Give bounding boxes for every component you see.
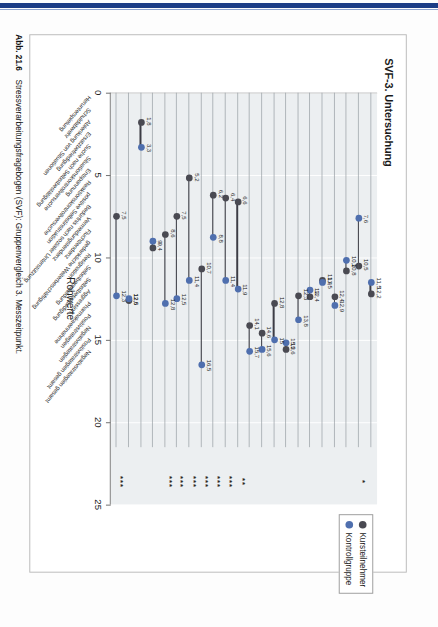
category-rule — [310, 92, 311, 446]
data-point-kontrollgruppe — [138, 143, 145, 150]
figure-caption: Abb. 21.6Stressverarbeitungsfragebogen (… — [14, 34, 24, 580]
data-point-value-label: 1,8 — [145, 117, 152, 125]
pair-connector — [249, 325, 250, 351]
data-point-kontrollgruppe — [186, 277, 193, 284]
data-point-kontrollgruppe — [331, 301, 338, 308]
data-point-value-label: 12,8 — [278, 296, 285, 308]
figure-caption-text: Stressverarbeitungsfragebogen (SVF): Gru… — [14, 79, 24, 354]
category-rule — [152, 92, 153, 446]
data-point-value-label: 8,8 — [218, 234, 225, 242]
data-point-kontrollgruppe — [247, 348, 254, 355]
data-point-kursteilnehmer — [198, 265, 205, 272]
data-point-value-label: 11,5 — [327, 277, 334, 288]
data-point-value-label: 6,6 — [242, 196, 249, 204]
category-rule — [249, 92, 250, 446]
legend-swatch-icon — [345, 520, 353, 528]
value-axis-title: Rohwerte — [65, 92, 76, 504]
category-rule — [261, 92, 262, 446]
data-point-kursteilnehmer — [210, 191, 217, 198]
gridline — [111, 504, 377, 505]
data-point-value-label: 15,7 — [254, 346, 261, 358]
pair-connector — [200, 269, 201, 365]
pair-connector — [213, 194, 214, 237]
value-axis-tick-label: 5 — [94, 172, 105, 177]
data-point-kontrollgruppe — [198, 361, 205, 368]
figure-frame: SVF-3. Untersuchung 051015202512,211,5He… — [29, 34, 406, 572]
data-point-kursteilnehmer — [150, 244, 157, 251]
data-point-kursteilnehmer — [259, 329, 266, 336]
gridline — [111, 257, 377, 258]
value-axis-tick — [106, 339, 111, 340]
data-point-kursteilnehmer — [174, 212, 181, 219]
value-axis-tick-label: 25 — [94, 499, 105, 510]
value-axis-tick-label: 20 — [94, 416, 105, 427]
value-axis-tick — [106, 422, 111, 423]
data-point-value-label: 12,9 — [339, 300, 346, 312]
pair-connector — [176, 216, 177, 298]
value-axis-tick — [106, 175, 111, 176]
data-point-value-label: 6,4 — [230, 193, 237, 201]
category-rule — [334, 92, 335, 446]
legend-item-kursteilnehmer: Kursteilnehmer — [358, 520, 368, 586]
legend-item-kontrollgruppe: Kontrollgruppe — [344, 520, 354, 586]
data-point-value-label: 12 — [315, 288, 322, 295]
pair-connector — [273, 303, 274, 339]
data-point-kontrollgruppe — [162, 300, 169, 307]
data-point-kursteilnehmer — [162, 231, 169, 238]
legend-label: Kursteilnehmer — [358, 532, 368, 587]
significance-marker: * — [358, 480, 367, 484]
gridline — [111, 175, 377, 176]
data-point-value-label: 11,9 — [242, 284, 249, 295]
data-point-kursteilnehmer — [295, 292, 302, 299]
gridline — [111, 339, 377, 340]
data-point-value-label: 3,3 — [145, 143, 152, 151]
gridline — [111, 92, 377, 93]
pair-connector — [358, 217, 359, 265]
category-rule — [128, 92, 129, 446]
data-point-kontrollgruppe — [319, 278, 326, 285]
significance-marker: *** — [177, 476, 186, 488]
data-point-value-label: 7,6 — [363, 214, 370, 222]
pair-connector — [225, 198, 226, 280]
data-point-value-label: 9 — [157, 240, 164, 243]
data-point-value-label: 7,5 — [121, 211, 128, 219]
data-point-kontrollgruppe — [368, 278, 375, 285]
pair-connector — [237, 201, 238, 288]
significance-marker: *** — [201, 476, 210, 488]
figure: SVF-3. Untersuchung 051015202512,211,5He… — [27, 26, 410, 601]
data-point-value-label: 8,6 — [170, 229, 177, 237]
chart-title: SVF-3. Untersuchung — [383, 58, 394, 166]
data-point-value-label: 10,7 — [206, 262, 213, 274]
category-rule — [358, 92, 359, 446]
legend: Kursteilnehmer Kontrollgruppe — [339, 514, 373, 594]
data-point-value-label: 10,5 — [363, 258, 370, 270]
data-point-kursteilnehmer — [331, 293, 338, 300]
data-point-value-label: 12,5 — [133, 293, 140, 305]
data-point-kontrollgruppe — [150, 237, 157, 244]
data-point-value-label: 12,3 — [303, 288, 310, 300]
data-point-value-label: 14,6 — [266, 326, 273, 338]
page-header-rule-thin — [0, 9, 438, 10]
pair-connector — [116, 216, 117, 295]
category-rule — [273, 92, 274, 446]
data-point-kursteilnehmer — [271, 300, 278, 307]
value-axis-tick-label: 10 — [94, 252, 105, 263]
data-point-value-label: 7,5 — [182, 211, 189, 219]
significance-marker: ** — [237, 478, 246, 486]
data-point-value-label: 5,2 — [194, 173, 201, 181]
data-point-kontrollgruppe — [210, 234, 217, 241]
book-page: SVF-3. Untersuchung 051015202512,211,5He… — [0, 0, 438, 627]
data-point-value-label: 12,3 — [121, 290, 128, 302]
data-point-kursteilnehmer — [283, 346, 290, 353]
category-rule — [213, 92, 214, 446]
category-rule — [322, 92, 323, 446]
data-point-value-label: 15,2 — [291, 338, 298, 350]
category-axis-line — [110, 92, 111, 504]
significance-marker: *** — [213, 476, 222, 488]
data-point-value-label: 11,4 — [194, 275, 201, 286]
data-point-kontrollgruppe — [343, 257, 350, 264]
data-point-kursteilnehmer — [368, 290, 375, 297]
data-point-value-label: 11,4 — [230, 275, 237, 286]
data-point-value-label: 12,5 — [182, 293, 189, 305]
data-point-kontrollgruppe — [295, 316, 302, 323]
